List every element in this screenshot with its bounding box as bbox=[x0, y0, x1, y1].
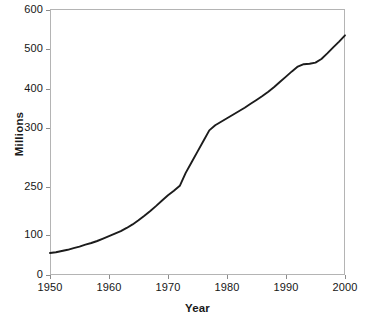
y-tick-label: 500 bbox=[8, 42, 43, 54]
x-tick-label: 1950 bbox=[30, 281, 70, 293]
x-tick-label: 1960 bbox=[89, 281, 129, 293]
x-tick-label: 1980 bbox=[207, 281, 247, 293]
x-axis-title: Year bbox=[50, 302, 345, 314]
plot-frame bbox=[51, 10, 345, 275]
y-tick-label: 100 bbox=[8, 228, 43, 240]
y-tick-label: 250 bbox=[8, 180, 43, 192]
x-tick-label: 1990 bbox=[266, 281, 306, 293]
y-tick-marks bbox=[46, 11, 50, 276]
y-tick-label: 0 bbox=[8, 268, 43, 280]
chart-figure: 0100250300400500600 19501960197019801990… bbox=[0, 0, 365, 327]
y-axis-title: Millions bbox=[13, 99, 25, 169]
y-tick-label: 400 bbox=[8, 82, 43, 94]
x-tick-label: 1970 bbox=[148, 281, 188, 293]
chart-plot-area bbox=[0, 0, 365, 327]
y-tick-label: 600 bbox=[8, 3, 43, 15]
x-tick-marks bbox=[51, 275, 346, 279]
x-tick-label: 2000 bbox=[325, 281, 365, 293]
